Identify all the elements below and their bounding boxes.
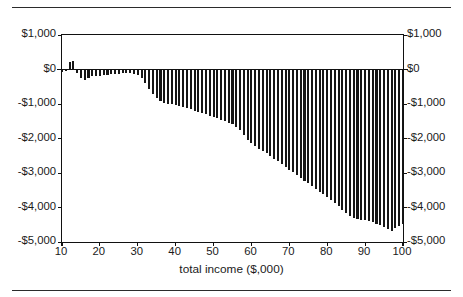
bar bbox=[247, 70, 249, 140]
y-axis-tick-label: -$5,000 bbox=[18, 235, 56, 246]
y-axis-tick-label: $1,000 bbox=[21, 28, 56, 39]
bar bbox=[239, 70, 241, 131]
bar bbox=[205, 70, 207, 115]
x-axis-tick-label: 30 bbox=[130, 246, 143, 257]
bar bbox=[216, 70, 218, 119]
y-tick-left bbox=[58, 173, 62, 174]
bar bbox=[144, 70, 146, 84]
bar bbox=[402, 70, 403, 225]
x-axis-tick-label: 10 bbox=[55, 246, 68, 257]
bar bbox=[372, 70, 374, 223]
bar bbox=[394, 70, 396, 229]
y-axis-tick-label: -$5,000 bbox=[407, 235, 445, 246]
bar bbox=[360, 70, 362, 220]
bar bbox=[171, 70, 173, 105]
x-axis-tick-label: 50 bbox=[206, 246, 219, 257]
bar bbox=[99, 70, 101, 76]
bar bbox=[209, 70, 211, 116]
bar bbox=[103, 70, 105, 76]
bar bbox=[288, 70, 290, 170]
bar bbox=[201, 70, 203, 113]
bar bbox=[235, 70, 237, 127]
bar bbox=[228, 70, 230, 123]
y-tick-left bbox=[58, 104, 62, 105]
bar bbox=[375, 70, 377, 224]
bar bbox=[148, 70, 150, 89]
bar bbox=[326, 70, 328, 198]
bar bbox=[186, 70, 188, 109]
bar bbox=[379, 70, 381, 226]
bar bbox=[220, 70, 222, 120]
y-tick-left bbox=[58, 138, 62, 139]
bar bbox=[258, 70, 260, 149]
bar bbox=[398, 70, 400, 226]
bar bbox=[91, 70, 93, 77]
y-axis-tick-label: -$1,000 bbox=[18, 97, 56, 108]
bar bbox=[224, 70, 226, 122]
bar bbox=[95, 70, 97, 77]
top-horizontal-rule bbox=[12, 7, 451, 8]
bar bbox=[159, 70, 161, 101]
bar bbox=[194, 70, 196, 111]
bar bbox=[178, 70, 180, 107]
y-axis-tick-label: -$2,000 bbox=[407, 132, 445, 143]
bar bbox=[182, 70, 184, 108]
bar bbox=[285, 70, 287, 167]
x-axis-tick-label: 40 bbox=[168, 246, 181, 257]
bar bbox=[87, 70, 89, 78]
bar bbox=[356, 70, 358, 219]
bar bbox=[250, 70, 252, 144]
x-axis-tick-label: 100 bbox=[393, 246, 412, 257]
bar bbox=[368, 70, 370, 222]
bar bbox=[296, 70, 298, 176]
bar bbox=[106, 70, 108, 75]
x-axis-tick-label: 80 bbox=[320, 246, 333, 257]
bar bbox=[137, 70, 139, 76]
bar bbox=[262, 70, 264, 151]
bar bbox=[334, 70, 336, 204]
bar bbox=[167, 70, 169, 104]
y-axis-tick-label: -$2,000 bbox=[18, 132, 56, 143]
bar bbox=[345, 70, 347, 213]
bar bbox=[341, 70, 343, 210]
bar bbox=[311, 70, 313, 187]
bar bbox=[266, 70, 268, 154]
bar bbox=[391, 70, 393, 231]
bottom-horizontal-rule bbox=[12, 290, 451, 291]
bar bbox=[231, 70, 233, 125]
bar bbox=[133, 70, 135, 74]
bar bbox=[353, 70, 355, 218]
bar bbox=[330, 70, 332, 201]
y-tick-left bbox=[58, 207, 62, 208]
x-axis-tick-label: 60 bbox=[244, 246, 257, 257]
y-axis-tick-label: $0 bbox=[407, 63, 420, 74]
bar bbox=[273, 70, 275, 159]
bar bbox=[163, 70, 165, 103]
x-axis-tick-label: 70 bbox=[282, 246, 295, 257]
bar bbox=[118, 70, 120, 74]
bar bbox=[349, 70, 351, 216]
x-axis-tick-label: 90 bbox=[358, 246, 371, 257]
bar bbox=[197, 70, 199, 112]
y-axis-tick-label: -$4,000 bbox=[18, 201, 56, 212]
bar bbox=[80, 70, 82, 79]
bar bbox=[213, 70, 215, 118]
bar bbox=[190, 70, 192, 110]
bar bbox=[383, 70, 385, 227]
bar bbox=[307, 70, 309, 184]
bar bbox=[338, 70, 340, 207]
bar bbox=[243, 70, 245, 136]
y-axis-tick-label: -$1,000 bbox=[407, 97, 445, 108]
bar bbox=[277, 70, 279, 162]
bar bbox=[315, 70, 317, 189]
bar-series bbox=[62, 35, 403, 242]
bar bbox=[84, 70, 86, 80]
bar bbox=[292, 70, 294, 173]
bar bbox=[300, 70, 302, 178]
y-axis-tick-label: $0 bbox=[43, 63, 56, 74]
bar bbox=[364, 70, 366, 221]
y-axis-tick-label: $1,000 bbox=[407, 28, 442, 39]
bar bbox=[387, 70, 389, 229]
bar bbox=[114, 70, 116, 74]
y-tick-left bbox=[58, 69, 62, 70]
